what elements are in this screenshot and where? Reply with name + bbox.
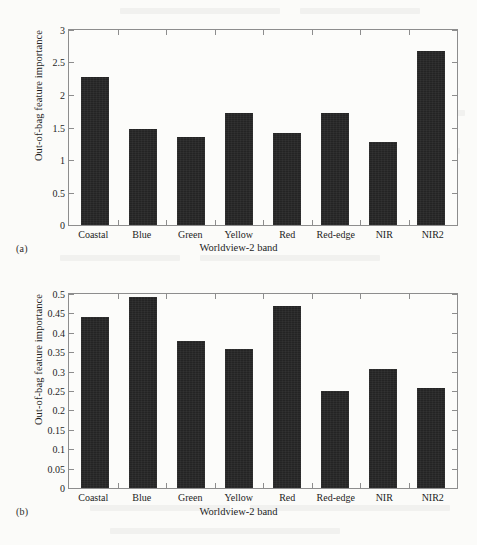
panel-label-b: (b) — [16, 506, 28, 517]
scanned-page: Out-of-bag feature importance 00.511.522… — [0, 0, 477, 545]
y-tick-mark — [69, 449, 74, 450]
y-tick-mark-right — [452, 313, 457, 314]
x-tick-mark-top — [263, 294, 264, 299]
bar-yellow — [225, 113, 254, 225]
y-tick-mark-right — [452, 225, 457, 226]
bar-nir2 — [417, 51, 446, 225]
x-tick-label-coastal: Coastal — [78, 492, 108, 503]
x-tick-mark-top — [409, 294, 410, 299]
y-tick-mark-right — [452, 193, 457, 194]
x-tick-mark — [409, 483, 410, 488]
x-tick-label-nir2: NIR2 — [422, 492, 444, 503]
x-tick-mark — [312, 483, 313, 488]
x-tick-label-red-edge: Red-edge — [317, 492, 355, 503]
y-tick-mark — [69, 225, 74, 226]
bar-slot — [71, 294, 119, 488]
x-tick-label-blue: Blue — [132, 492, 151, 503]
bar-slot — [119, 30, 167, 225]
y-tick-mark — [69, 160, 74, 161]
bar-blue — [129, 129, 158, 225]
y-tick-label: 1.5 — [53, 122, 66, 133]
x-tick-mark-top — [215, 294, 216, 299]
bar-coastal — [81, 77, 110, 225]
x-axis-title-a: Worldview-2 band — [0, 242, 477, 253]
x-tick-mark — [166, 220, 167, 225]
bar-nir — [369, 369, 398, 488]
x-tick-mark-top — [166, 30, 167, 35]
y-tick-label: 0.25 — [48, 386, 66, 397]
bar-slot — [215, 294, 263, 488]
x-tick-mark — [409, 220, 410, 225]
y-tick-label: 0.1 — [53, 444, 66, 455]
bar-slot — [263, 30, 311, 225]
x-tick-label-yellow: Yellow — [225, 229, 253, 240]
x-tick-mark — [166, 483, 167, 488]
bar-green — [177, 341, 206, 488]
x-tick-mark — [118, 220, 119, 225]
y-tick-label: 0.3 — [53, 366, 66, 377]
y-tick-mark — [69, 410, 74, 411]
y-tick-mark — [69, 294, 74, 295]
y-tick-mark-right — [452, 160, 457, 161]
y-tick-mark-right — [452, 469, 457, 470]
x-tick-label-red: Red — [279, 229, 295, 240]
bar-red-edge — [321, 391, 350, 488]
x-tick-mark — [312, 220, 313, 225]
y-tick-mark — [69, 469, 74, 470]
x-tick-mark-top — [166, 294, 167, 299]
y-axis-title-b: Out-of-bag feature importance — [33, 260, 44, 460]
y-tick-mark — [69, 313, 74, 314]
y-tick-label: 0.35 — [48, 347, 66, 358]
y-tick-mark — [69, 95, 74, 96]
y-tick-label: 2.5 — [53, 57, 66, 68]
x-tick-label-red-edge: Red-edge — [317, 229, 355, 240]
bar-blue — [129, 297, 158, 488]
x-tick-label-nir: NIR — [376, 229, 393, 240]
y-tick-mark — [69, 30, 74, 31]
y-tick-mark-right — [452, 128, 457, 129]
y-tick-label: 2 — [60, 89, 65, 100]
bar-slot — [263, 294, 311, 488]
y-tick-label: 0.45 — [48, 308, 66, 319]
bar-slot — [71, 30, 119, 225]
y-tick-mark — [69, 128, 74, 129]
y-tick-label: 0.05 — [48, 463, 66, 474]
bar-slot — [359, 294, 407, 488]
x-tick-label-yellow: Yellow — [225, 492, 253, 503]
y-tick-mark-right — [452, 391, 457, 392]
x-tick-mark-top — [118, 30, 119, 35]
y-tick-mark — [69, 372, 74, 373]
y-tick-label: 3 — [60, 25, 65, 36]
figure-panel-b: Out-of-bag feature importance 00.050.10.… — [0, 272, 477, 545]
y-tick-label: 0.15 — [48, 424, 66, 435]
bar-slot — [119, 294, 167, 488]
y-tick-mark — [69, 488, 74, 489]
x-tick-label-nir2: NIR2 — [422, 229, 444, 240]
x-tick-mark — [360, 483, 361, 488]
x-tick-label-red: Red — [279, 492, 295, 503]
y-tick-label: 0.5 — [53, 187, 66, 198]
x-tick-mark — [215, 483, 216, 488]
bar-coastal — [81, 317, 110, 488]
x-tick-label-green: Green — [178, 492, 202, 503]
y-tick-mark-right — [452, 488, 457, 489]
y-axis-title-a: Out-of-bag feature importance — [33, 0, 44, 196]
figure-panel-a: Out-of-bag feature importance 00.511.522… — [0, 0, 477, 272]
x-tick-mark-top — [263, 30, 264, 35]
x-tick-mark-top — [360, 30, 361, 35]
y-tick-mark-right — [452, 430, 457, 431]
y-tick-label: 0.5 — [53, 289, 66, 300]
x-tick-mark-top — [215, 30, 216, 35]
x-tick-mark — [118, 483, 119, 488]
plot-area-a: 00.511.522.53CoastalBlueGreenYellowRedRe… — [68, 29, 458, 226]
x-axis-title-b: Worldview-2 band — [0, 506, 477, 517]
bar-series-b — [69, 294, 457, 488]
bar-nir — [369, 142, 398, 225]
y-tick-mark — [69, 62, 74, 63]
bar-slot — [215, 30, 263, 225]
x-tick-mark — [263, 483, 264, 488]
bar-red-edge — [321, 113, 350, 225]
y-tick-mark-right — [452, 410, 457, 411]
x-tick-mark-top — [118, 294, 119, 299]
x-tick-mark — [215, 220, 216, 225]
